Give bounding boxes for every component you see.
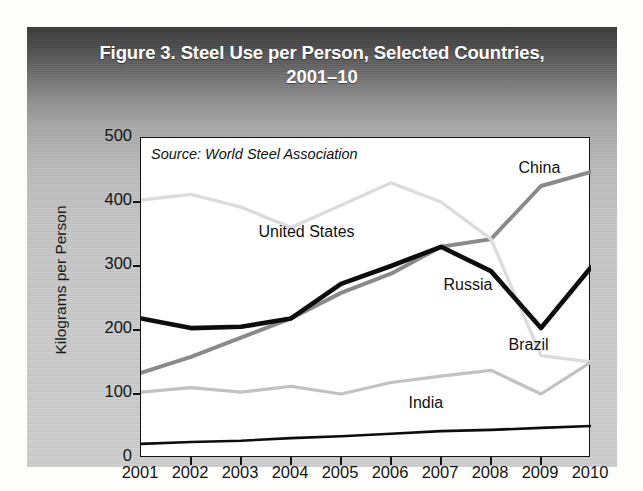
- x-tick-mark: [240, 457, 242, 465]
- x-tick-label: 2002: [162, 463, 218, 482]
- x-tick-label: 2008: [462, 463, 518, 482]
- x-tick-mark: [490, 457, 492, 465]
- x-tick-mark: [290, 457, 292, 465]
- x-tick-label: 2004: [262, 463, 318, 482]
- united-states-label: United States: [259, 223, 355, 241]
- y-tick-mark: [133, 265, 141, 267]
- y-tick-label: 200: [88, 318, 132, 337]
- china-label: China: [519, 159, 561, 177]
- figure-panel: Figure 3. Steel Use per Person, Selected…: [27, 27, 617, 467]
- figure-title-line-2: 2001–10: [27, 65, 617, 89]
- series-lines: [141, 172, 591, 444]
- x-tick-label: 2007: [412, 463, 468, 482]
- y-tick-mark: [133, 393, 141, 395]
- source-note: Source: World Steel Association: [151, 146, 358, 162]
- plot-area: Source: World Steel Association ChinaUni…: [140, 137, 590, 457]
- x-tick-mark: [540, 457, 542, 465]
- x-tick-mark: [340, 457, 342, 465]
- x-tick-mark: [440, 457, 442, 465]
- x-tick-mark: [390, 457, 392, 465]
- x-tick-label: 2010: [562, 463, 618, 482]
- figure-title-line-1: Figure 3. Steel Use per Person, Selected…: [27, 41, 617, 65]
- y-tick-mark: [133, 201, 141, 203]
- x-tick-label: 2009: [512, 463, 568, 482]
- brazil-label: Brazil: [509, 336, 549, 354]
- line-chart-svg: [141, 138, 591, 458]
- series-line-india: [141, 426, 591, 444]
- y-tick-label: 500: [88, 126, 132, 145]
- x-tick-label: 2006: [362, 463, 418, 482]
- y-tick-label: 100: [88, 382, 132, 401]
- y-tick-mark: [133, 329, 141, 331]
- figure-title: Figure 3. Steel Use per Person, Selected…: [27, 41, 617, 89]
- y-tick-label: 300: [88, 254, 132, 273]
- x-tick-label: 2001: [112, 463, 168, 482]
- russia-label: Russia: [444, 276, 493, 294]
- x-tick-mark: [190, 457, 192, 465]
- x-tick-label: 2005: [312, 463, 368, 482]
- x-tick-label: 2003: [212, 463, 268, 482]
- y-axis-label: Kilograms per Person: [52, 180, 70, 380]
- india-label: India: [409, 394, 444, 412]
- figure-page: Figure 3. Steel Use per Person, Selected…: [0, 0, 643, 491]
- y-tick-label: 400: [88, 190, 132, 209]
- series-line-brazil: [141, 362, 591, 394]
